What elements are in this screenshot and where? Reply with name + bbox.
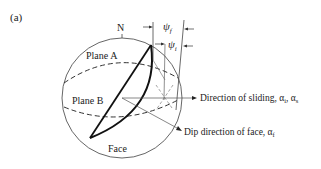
face-label: Face <box>108 143 127 154</box>
plane-a-label: Plane A <box>86 50 118 61</box>
psi-f-label: ψf <box>163 20 173 35</box>
psi-f-arrowhead-left <box>149 26 153 29</box>
plane-b-label: Plane B <box>72 95 104 106</box>
psi-f-arrowhead-right <box>184 28 188 31</box>
dip-arrowhead <box>176 126 182 131</box>
north-label: N <box>117 22 124 33</box>
panel-label: (a) <box>10 11 23 24</box>
construction-line-3 <box>153 60 165 80</box>
sliding-direction-label: Direction of sliding, αi, αs <box>200 93 299 104</box>
sliding-arrowhead <box>192 96 197 100</box>
dip-direction-label: Dip direction of face, αf <box>184 127 276 138</box>
psi-i-reference-line <box>176 20 184 110</box>
psi-i-label: ψi <box>168 38 177 53</box>
psi-i-inner-line <box>164 44 165 100</box>
psi-i-arrowhead-right <box>183 45 187 48</box>
stereonet-diagram: (a) N Plane A Plane B Face ψf ψi Directi… <box>0 0 321 169</box>
psi-i-arrowhead-left <box>161 43 165 46</box>
